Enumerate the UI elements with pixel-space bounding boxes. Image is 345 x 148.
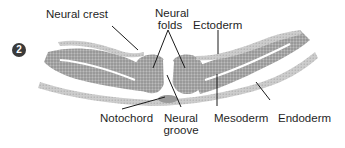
- label-neural-folds-line2: folds: [155, 19, 185, 31]
- label-neural-folds-line1: Neural: [155, 7, 185, 19]
- notochord-shape: [158, 95, 178, 103]
- neural-fold-right: [171, 55, 204, 94]
- label-neural-groove-line2: groove: [158, 124, 204, 136]
- label-neural-folds: Neural folds: [155, 7, 185, 31]
- label-ectoderm: Ectoderm: [193, 19, 242, 31]
- label-neural-crest: Neural crest: [46, 8, 108, 20]
- label-neural-groove-line1: Neural: [158, 112, 204, 124]
- leader-neural-crest: [112, 26, 138, 50]
- neural-groove: [163, 59, 174, 95]
- label-mesoderm: Mesoderm: [214, 112, 268, 124]
- label-endoderm: Endoderm: [278, 112, 331, 124]
- step-number-badge: 2: [12, 43, 26, 57]
- label-neural-groove: Neural groove: [158, 112, 204, 136]
- embryo-cross-section-figure: 2 Neural crest Neural folds Ectoderm Not…: [0, 0, 345, 148]
- neural-fold-left: [135, 55, 167, 94]
- label-notochord: Notochord: [100, 112, 153, 124]
